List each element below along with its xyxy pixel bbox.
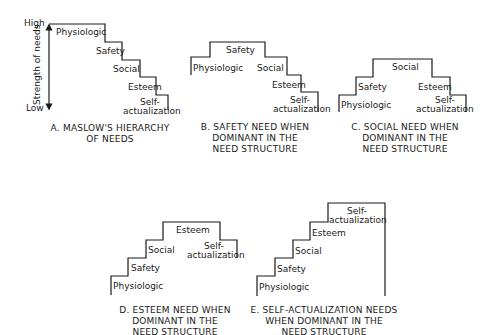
panel-a-physiologic: Physiologic: [56, 27, 106, 37]
axis-strength-label: Strength of needs: [32, 25, 42, 105]
panel-a-caption: A. MASLOW'S HIERARCHY OF NEEDS: [45, 123, 175, 145]
panel-e-self-2: actualization: [329, 215, 387, 225]
panel-a-social: Social: [113, 64, 140, 74]
panel-b-safety: Safety: [226, 45, 255, 55]
panel-b-self-2: actualization: [273, 104, 331, 114]
panel-c-esteem: Esteem: [418, 82, 452, 92]
panel-b-esteem: Esteem: [272, 80, 306, 90]
panel-d-physiologic: Physiologic: [113, 281, 163, 291]
panel-c-caption: C. SOCIAL NEED WHEN DOMINANT IN THE NEED…: [340, 122, 470, 155]
panel-e-caption: E. SELF-ACTUALIZATION NEEDS WHEN DOMINAN…: [244, 305, 404, 335]
panel-d-caption: D. ESTEEM NEED WHEN DOMINANT IN THE NEED…: [105, 305, 245, 335]
panel-c-physiologic: Physiologic: [341, 100, 391, 110]
panel-c-safety: Safety: [358, 82, 387, 92]
panel-a-safety: Safety: [96, 46, 125, 56]
panel-d-self-2: actualization: [187, 250, 245, 260]
panel-b-caption: B. SAFETY NEED WHEN DOMINANT IN THE NEED…: [190, 122, 320, 155]
panel-c-self-2: actualization: [416, 104, 474, 114]
panel-d-safety: Safety: [131, 263, 160, 273]
panel-e-social: Social: [295, 246, 322, 256]
panel-e-esteem: Esteem: [312, 228, 346, 238]
panel-d-social: Social: [148, 245, 175, 255]
panel-b-physiologic: Physiologic: [193, 63, 243, 73]
panel-d-esteem: Esteem: [176, 225, 210, 235]
panel-a-self-2: actualization: [123, 106, 181, 116]
panel-b-social: Social: [257, 63, 284, 73]
panel-e-safety: Safety: [277, 264, 306, 274]
panel-e-physiologic: Physiologic: [259, 282, 309, 292]
panel-c-social: Social: [392, 62, 419, 72]
panel-a-esteem: Esteem: [128, 82, 162, 92]
